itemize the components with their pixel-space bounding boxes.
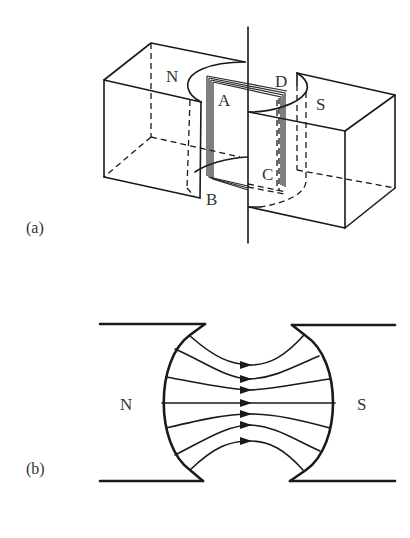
pole-label-s-a: S [316,95,325,114]
arrow-icon [240,386,252,394]
arrow-icon [240,361,252,369]
coil-label-d: D [275,72,287,91]
coil-label-a: A [218,91,231,110]
diagram-canvas: N S A B C D (a) [0,0,410,538]
arrow-icon [240,437,252,445]
arrow-icon [240,375,252,383]
figure-b: N S (b) [26,324,395,481]
figure-a: N S A B C D (a) [26,27,395,243]
arrow-icon [240,399,252,407]
pole-label-s-b: S [357,395,366,414]
pole-label-n-a: N [166,67,178,86]
arrow-icon [240,410,252,418]
coil-label-c: C [262,165,273,184]
field-direction-arrows [240,361,252,445]
figure-b-label: (b) [26,460,45,478]
coil-label-b: B [206,190,217,209]
figure-a-label: (a) [26,219,44,237]
arrow-icon [240,421,252,429]
pole-label-n-b: N [120,395,132,414]
